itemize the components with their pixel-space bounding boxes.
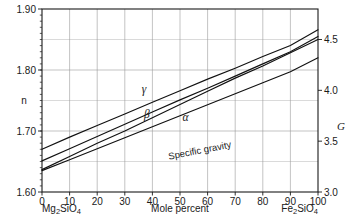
mineral-properties-chart: 1.601.701.801.90 3.03.54.04.5 0102030405…: [0, 0, 362, 221]
beta-curve-label: β: [143, 108, 150, 121]
y-tick-label: 1.70: [17, 126, 37, 137]
chart-figure-root: 1.601.701.801.90 3.03.54.04.5 0102030405…: [0, 0, 362, 221]
x-endpoint-right-formula-part1: Fe: [281, 203, 293, 214]
y-tick-label: 1.80: [17, 65, 37, 76]
y2-tick-label: 4.0: [324, 85, 338, 96]
x-tick-label: 30: [119, 196, 131, 207]
x-axis-title: Mole percent: [151, 203, 209, 214]
x-endpoint-left-sub2: 4: [77, 207, 81, 216]
y2-axis-title: G: [337, 120, 345, 132]
x-tick-label: 20: [92, 196, 104, 207]
y2-tick-label: 3.5: [324, 136, 338, 147]
x-endpoint-left-formula-part1: Mg: [42, 203, 56, 214]
x-endpoint-right-sub2: 4: [314, 207, 318, 216]
x-endpoint-right-formula-part2: SiO: [297, 203, 314, 214]
chart-background: [0, 0, 362, 221]
y-axis-title: n: [21, 95, 27, 106]
x-tick-label: 80: [257, 196, 269, 207]
x-tick-label: 70: [230, 196, 242, 207]
gamma-curve-label: γ: [142, 83, 147, 96]
y-tick-label: 1.60: [17, 187, 37, 198]
x-endpoint-left-formula-part2: SiO: [60, 203, 77, 214]
alpha-curve-label: α: [182, 111, 189, 123]
y2-tick-label: 4.5: [324, 34, 338, 45]
y-tick-label: 1.90: [17, 4, 37, 15]
